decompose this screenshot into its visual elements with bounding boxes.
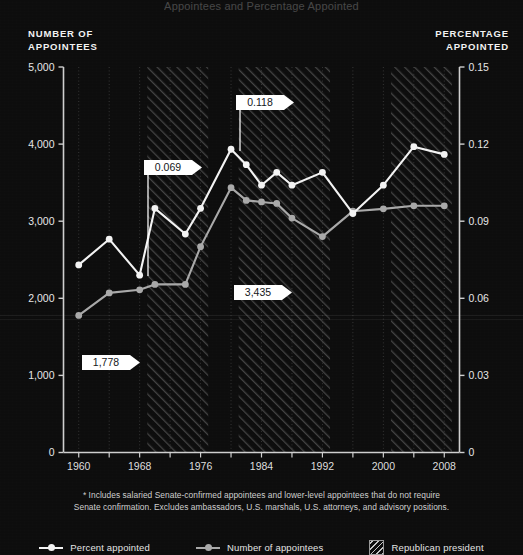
chart-legend: Percent appointed Number of appointees R…	[0, 540, 523, 555]
legend-label: Number of appointees	[227, 542, 323, 553]
right-tick-label: 0.06	[469, 292, 490, 304]
line-swatch-icon	[39, 543, 63, 552]
number-of-appointees-point	[410, 202, 417, 209]
legend-item-number-of-appointees[interactable]: Number of appointees	[196, 540, 323, 555]
percent-appointed-point	[410, 143, 417, 150]
percent-appointed-point	[151, 205, 158, 212]
hatch-swatch-icon	[369, 540, 384, 555]
left-tick-label: 0	[49, 446, 55, 458]
right-tick-label: 0.15	[469, 61, 490, 73]
number-of-appointees-point	[106, 290, 113, 297]
right-axis-ticks: 0.150.120.090.060.030	[460, 61, 490, 459]
left-tick-label: 2,000	[28, 292, 54, 304]
footnote: * Includes salaried Senate-confirmed app…	[0, 489, 523, 513]
chart-plot-area: 5,0004,0003,0002,0001,0000 0.150.120.090…	[0, 0, 523, 555]
left-tick-label: 5,000	[28, 61, 54, 73]
right-tick-label: 0	[469, 446, 475, 458]
right-tick-label: 0.12	[469, 138, 490, 150]
legend-label: Republican president	[391, 542, 483, 553]
percent-appointed-point	[289, 182, 296, 189]
republican-band-1	[239, 67, 330, 453]
left-tick-label: 3,000	[28, 215, 54, 227]
number-of-appointees-point	[380, 205, 387, 212]
republican-band-0	[147, 67, 208, 453]
percent-appointed-point	[273, 169, 280, 176]
callout-label: 1,778	[93, 356, 119, 368]
footnote-line-1: * Includes salaried Senate-confirmed app…	[0, 489, 523, 501]
x-tick-label: 1968	[128, 460, 152, 472]
callout-label: 0.069	[155, 161, 181, 173]
number-of-appointees-point	[151, 281, 158, 288]
percent-appointed-point	[182, 231, 189, 238]
right-tick-label: 0.09	[469, 215, 490, 227]
percent-appointed-point	[258, 182, 265, 189]
right-tick-label: 0.03	[469, 369, 490, 381]
republican-band-2	[391, 67, 452, 453]
percent-appointed-point	[441, 151, 448, 158]
x-tick-label: 2008	[433, 460, 457, 472]
callout-peak-number: 3,435	[234, 285, 292, 300]
legend-item-republican-president[interactable]: Republican president	[369, 540, 483, 555]
footnote-line-2: Senate confirmation. Excludes ambassador…	[0, 501, 523, 513]
republican-president-bands	[147, 67, 452, 453]
percent-appointed-point	[349, 210, 356, 217]
x-tick-label: 1960	[67, 460, 91, 472]
x-axis-ticks: 1960196819761984199220002008	[67, 453, 456, 472]
legend-item-percent-appointed[interactable]: Percent appointed	[39, 540, 150, 555]
number-of-appointees-point	[319, 233, 326, 240]
percent-appointed-point	[197, 205, 204, 212]
percent-appointed-point	[75, 261, 82, 268]
number-of-appointees-point	[289, 215, 296, 222]
percent-appointed-point	[228, 146, 235, 153]
percent-appointed-point	[319, 169, 326, 176]
legend-label: Percent appointed	[70, 542, 150, 553]
percent-appointed-point	[106, 236, 113, 243]
x-tick-label: 1976	[189, 460, 213, 472]
number-of-appointees-point	[75, 312, 82, 319]
callout-label: 3,435	[245, 286, 271, 298]
number-of-appointees-point	[228, 184, 235, 191]
percent-appointed-point	[243, 161, 250, 168]
number-of-appointees-point	[273, 200, 280, 207]
callout-start-number: 1,778	[82, 355, 140, 370]
percent-appointed-point	[136, 272, 143, 279]
x-tick-label: 1992	[311, 460, 335, 472]
left-tick-label: 4,000	[28, 138, 54, 150]
chart-screenshot: Appointees and Percentage Appointed NUMB…	[0, 0, 523, 555]
left-axis-ticks: 5,0004,0003,0002,0001,0000	[28, 61, 63, 459]
callout-label: 0.118	[247, 96, 273, 108]
line-swatch-icon	[196, 543, 220, 552]
x-tick-label: 1984	[250, 460, 274, 472]
number-of-appointees-point	[243, 197, 250, 204]
number-of-appointees-point	[136, 286, 143, 293]
number-of-appointees-point	[197, 243, 204, 250]
number-of-appointees-point	[441, 202, 448, 209]
x-tick-label: 2000	[372, 460, 396, 472]
percent-appointed-point	[380, 182, 387, 189]
number-of-appointees-point	[258, 199, 265, 206]
number-of-appointees-point	[182, 281, 189, 288]
left-tick-label: 1,000	[28, 369, 54, 381]
